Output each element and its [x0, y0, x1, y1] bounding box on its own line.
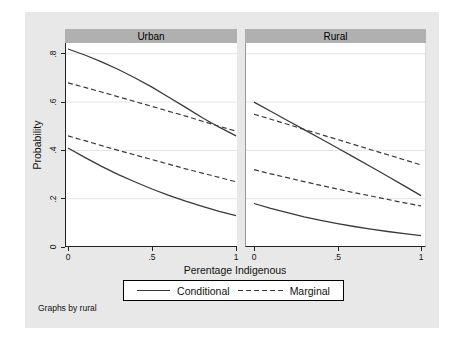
y-tick-label: 0 [48, 245, 58, 250]
x-tick-label: 0 [252, 252, 257, 262]
x-tick-label: .5 [334, 252, 341, 262]
y-tick-label: .4 [48, 147, 58, 154]
curve-conditional [68, 49, 236, 136]
x-tick-label: 1 [234, 252, 239, 262]
panel-title-rural: Rural [324, 31, 348, 42]
x-tick-label: 1 [419, 252, 424, 262]
curve-conditional [254, 102, 421, 196]
y-tick-label: .8 [48, 50, 58, 57]
y-tick-mark [61, 53, 65, 54]
x-axis-title: Perentage Indigenous [184, 264, 287, 276]
curve-marginal [68, 83, 236, 131]
urban-panel-svg [66, 43, 237, 247]
y-tick-mark [61, 102, 65, 103]
x-tick-label: .5 [148, 252, 155, 262]
curve-conditional [254, 204, 421, 236]
dashed-line-sample [238, 290, 283, 292]
y-axis-title: Probability [31, 120, 43, 169]
panel-title-urban: Urban [137, 31, 164, 42]
by-note: Graphs by rural [38, 303, 97, 313]
legend: Conditional Marginal [123, 280, 344, 301]
x-tick-mark [236, 247, 237, 251]
legend-entry-marginal: Marginal [238, 285, 330, 297]
x-tick-mark [152, 247, 153, 251]
curve-marginal [254, 114, 421, 165]
x-tick-mark [421, 247, 422, 251]
curve-marginal [68, 136, 236, 182]
panel-strip-rural: Rural [245, 29, 426, 43]
urban-panel-plot [65, 43, 237, 247]
curve-marginal [254, 170, 421, 206]
y-tick-label: .2 [48, 195, 58, 202]
panel-strip-urban: Urban [65, 29, 237, 43]
x-tick-mark [254, 247, 255, 251]
stata-by-graph: Urban Rural Probability Perentage Indige… [25, 12, 439, 328]
solid-line-sample [137, 290, 170, 292]
y-tick-mark [61, 198, 65, 199]
y-tick-mark [61, 247, 65, 248]
legend-label-marginal: Marginal [290, 285, 330, 297]
curve-conditional [68, 148, 236, 216]
rural-panel-svg [246, 43, 425, 247]
rural-panel-plot [245, 43, 426, 247]
x-tick-mark [338, 247, 339, 251]
y-tick-label: .6 [48, 99, 58, 106]
legend-label-conditional: Conditional [177, 285, 230, 297]
legend-entry-conditional: Conditional [137, 285, 230, 297]
x-tick-label: 0 [66, 252, 71, 262]
x-tick-mark [68, 247, 69, 251]
y-tick-mark [61, 150, 65, 151]
